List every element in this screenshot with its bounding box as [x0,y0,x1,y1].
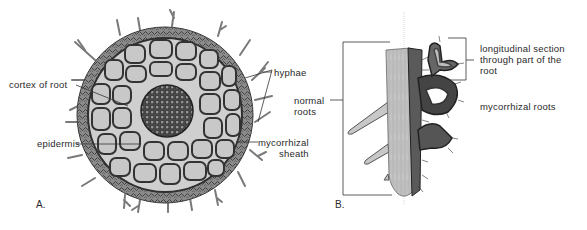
label-epidermis: epidermis [37,138,80,149]
label-mycorrhizal-roots: mycorrhizal roots [480,101,556,112]
label-cortex-of-root: cortex of root [9,79,67,90]
label-mycorrhizal-sheath: mycorrhizal sheath [258,137,309,159]
panel-label-a: A. [36,199,45,210]
label-longitudinal-section: longitudinal section through part of the… [480,43,565,76]
label-hyphae: hyphae [274,67,306,78]
root-system-diagram [348,12,464,205]
label-normal-roots: normal roots [294,95,324,117]
panel-label-b: B. [335,199,344,210]
cross-section-diagram [66,10,272,212]
